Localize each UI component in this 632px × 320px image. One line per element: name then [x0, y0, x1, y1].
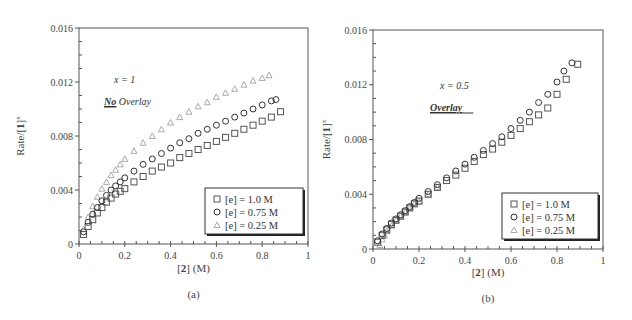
legend-entry-label: [e] = 0.25 M [522, 225, 576, 236]
legend-entry-label: [e] = 0.75 M [522, 212, 576, 223]
y-tick-label: 0.004 [51, 185, 74, 196]
chart-panel-b: 00.0040.0080.0120.01600.20.40.60.81[2] (… [320, 25, 606, 306]
legend-entry-label: [e] = 1.0 M [225, 194, 274, 205]
panel-label: (a) [187, 288, 200, 301]
y-tick-label: 0.008 [345, 134, 368, 145]
legend-entry-label: [e] = 0.75 M [225, 207, 279, 218]
figure-canvas: 00.0040.0080.0120.01600.20.40.60.81[2] (… [0, 0, 632, 320]
x-tick-label: 1 [306, 250, 311, 261]
panel-label: (b) [482, 292, 495, 305]
x-tick-label: 0 [77, 250, 82, 261]
legend: [e] = 1.0 M[e] = 0.75 M[e] = 0.25 M [502, 193, 600, 241]
annotation-exponent: x = 0.5 [439, 80, 469, 91]
y-tick-label: 0.012 [345, 79, 368, 90]
x-axis-title: [2] (M) [177, 262, 210, 275]
y-tick-label: 0.012 [51, 77, 74, 88]
x-tick-label: 0.4 [164, 250, 177, 261]
x-tick-label: 0.6 [505, 255, 518, 266]
chart-panel-a: 00.0040.0080.0120.01600.20.40.60.81[2] (… [14, 23, 311, 302]
annotation-overlay: Overlay [430, 102, 463, 113]
x-tick-label: 0 [371, 255, 376, 266]
legend-entry-label: [e] = 1.0 M [522, 199, 571, 210]
y-tick-label: 0.016 [345, 25, 368, 36]
legend-entry-label: [e] = 0.25 M [225, 220, 279, 231]
y-tick-label: 0 [68, 239, 73, 250]
y-tick-label: 0.004 [345, 189, 368, 200]
x-tick-label: 0.4 [459, 255, 472, 266]
y-tick-label: 0.016 [51, 23, 74, 34]
y-axis-title: Rate/[1]x [14, 116, 26, 156]
x-tick-label: 0.2 [413, 255, 426, 266]
x-tick-label: 0.8 [551, 255, 564, 266]
x-tick-label: 0.8 [256, 250, 269, 261]
x-tick-label: 0.6 [210, 250, 223, 261]
y-tick-label: 0 [362, 244, 367, 255]
y-axis-title: Rate/[1]x [320, 119, 332, 159]
legend: [e] = 1.0 M[e] = 0.75 M[e] = 0.25 M [205, 188, 305, 236]
x-tick-label: 0.2 [119, 250, 132, 261]
y-tick-label: 0.008 [51, 131, 74, 142]
x-tick-label: 1 [601, 255, 606, 266]
annotation-exponent: x = 1 [113, 74, 135, 85]
x-axis-title: [2] (M) [472, 266, 505, 279]
annotation-overlay: No Overlay [103, 96, 152, 107]
